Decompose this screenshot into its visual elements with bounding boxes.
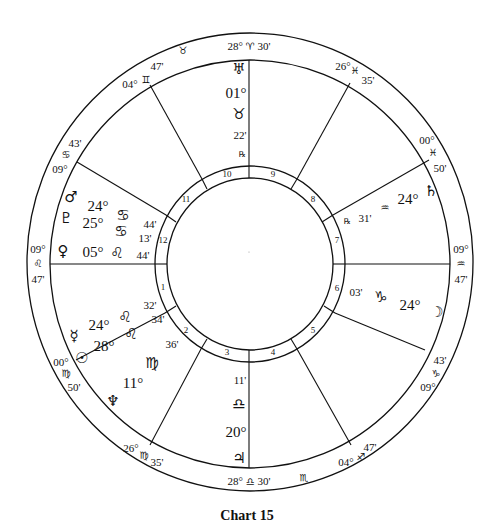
cancer-icon: ♋ — [114, 224, 127, 239]
cusp-line-9 — [297, 83, 350, 179]
house-number-4: 4 — [271, 348, 276, 357]
house-number-7: 7 — [335, 236, 340, 245]
zodiac-outer-ring — [27, 33, 473, 491]
jupiter-degree: 20° — [226, 425, 247, 440]
saturn-minute: 31' — [359, 213, 372, 224]
virgo-icon: ♍ — [140, 451, 149, 461]
aries-icon: ♈ — [246, 41, 255, 52]
taurus-icon: ♉ — [179, 46, 188, 56]
virgo-icon: ♍ — [62, 369, 71, 379]
taurus-icon: ♉ — [232, 107, 245, 122]
cusp-asc-degree: 09° — [30, 244, 45, 255]
cusp-12-degree: 09° — [52, 164, 67, 175]
aquarius-icon: ♒ — [381, 203, 390, 213]
jupiter-minute: 11' — [234, 375, 247, 386]
neptune-icon: ♆ — [106, 394, 119, 409]
neptune-minute: 36' — [166, 339, 179, 350]
scorpio-icon: ♏ — [300, 473, 309, 483]
cusp-3-minute: 35' — [151, 457, 164, 468]
cancer-icon: ♋ — [116, 208, 129, 223]
uranus-degree: 01° — [226, 86, 247, 101]
divider-11-10 — [202, 179, 207, 189]
house-number-1: 1 — [161, 283, 166, 292]
cusp-3-degree: 26° — [123, 443, 138, 454]
cusp-mc-degree: 28° — [228, 40, 243, 52]
capricorn-icon: ♑ — [432, 369, 441, 379]
venus-icon: ♀ — [58, 244, 69, 259]
divider-3-2 — [201, 339, 207, 349]
capricorn-icon: ♑ — [374, 290, 387, 305]
sagittarius-icon: ♐ — [357, 452, 366, 462]
cusp-ic-minute: 30' — [257, 475, 270, 487]
leo-icon: ♌ — [124, 327, 137, 342]
mars-degree: 24° — [88, 199, 109, 214]
cusp-mc-minute: 30' — [257, 40, 270, 52]
leo-icon: ♌ — [110, 246, 123, 261]
leo-icon: ♌ — [118, 310, 131, 325]
sun-degree: 28° — [94, 339, 115, 354]
uranus-icon: ♅ — [232, 62, 245, 77]
cusp-5-minute: 47' — [364, 442, 377, 453]
house-number-8: 8 — [311, 195, 316, 204]
moon-icon: ☽ — [430, 305, 443, 320]
libra-icon: ♎ — [246, 476, 255, 487]
center-dot — [248, 251, 249, 252]
house-number-5: 5 — [311, 326, 316, 335]
pluto-minute: 13' — [139, 233, 152, 244]
natal-chart-wheel — [0, 0, 494, 527]
libra-icon: ♎ — [232, 397, 245, 412]
cusp-line-5 — [297, 349, 351, 445]
house-number-12: 12 — [159, 236, 168, 245]
cusp-8-minute: 50' — [434, 163, 447, 174]
moon-degree: 24° — [400, 298, 421, 313]
cusp-label-ic: 28° ♎ 30' — [228, 476, 271, 487]
pluto-degree: 25° — [83, 216, 104, 231]
cusp-5-degree: 04° — [338, 457, 353, 468]
chart-caption: Chart 15 — [0, 508, 494, 524]
mars-icon: ♂ — [64, 190, 77, 205]
mars-minute: 44' — [144, 219, 157, 230]
virgo-icon: ♍ — [145, 356, 158, 371]
retrograde-icon: ℞ — [343, 218, 350, 226]
jupiter-icon: ♃ — [232, 451, 245, 466]
cusp-6-degree: 09° — [420, 382, 435, 393]
cusp-2-degree: 00° — [53, 357, 68, 368]
venus-degree: 05° — [83, 245, 104, 260]
cancer-icon: ♋ — [62, 150, 71, 160]
divider-5-4 — [291, 339, 297, 349]
mercury-degree: 24° — [89, 318, 110, 333]
cusp-9-degree: 26° — [335, 61, 350, 72]
house-number-2: 2 — [184, 326, 189, 335]
cusp-2-minute: 50' — [68, 382, 81, 393]
gemini-icon: ♊ — [142, 75, 151, 85]
mercury-minute: 32' — [144, 300, 157, 311]
mercury-icon: ☿ — [69, 329, 78, 344]
cusp-line-11 — [150, 85, 202, 179]
sun-minute: 34' — [152, 314, 165, 325]
divider-12-11 — [166, 215, 176, 222]
divider-8-7 — [322, 215, 333, 222]
leo-icon: ♌ — [34, 259, 43, 269]
cusp-ic-degree: 28° — [228, 475, 243, 487]
pisces-icon: ♓ — [351, 66, 360, 76]
saturn-degree: 24° — [398, 192, 419, 207]
cusp-8-degree: 00° — [419, 135, 434, 146]
uranus-minute: 22' — [234, 130, 247, 141]
pluto-icon: ♇ — [59, 211, 72, 226]
divider-2-1 — [165, 306, 176, 313]
sun-icon: ☉ — [75, 351, 88, 366]
neptune-degree: 11° — [123, 376, 143, 391]
retrograde-icon: ℞ — [238, 151, 245, 159]
cusp-6-minute: 43' — [434, 355, 447, 366]
house-ring-inner — [167, 178, 333, 350]
aquarius-icon: ♒ — [457, 259, 466, 269]
divider-6-5 — [324, 306, 335, 313]
cusp-asc-minute: 47' — [32, 274, 45, 285]
house-number-6: 6 — [335, 284, 340, 293]
moon-minute: 03' — [350, 287, 363, 298]
pisces-icon: ♓ — [429, 148, 438, 158]
cusp-11-minute: 47' — [151, 61, 164, 72]
house-number-9: 9 — [271, 170, 276, 179]
cusp-dsc-minute: 47' — [455, 274, 468, 285]
saturn-icon: ♄ — [424, 184, 437, 199]
